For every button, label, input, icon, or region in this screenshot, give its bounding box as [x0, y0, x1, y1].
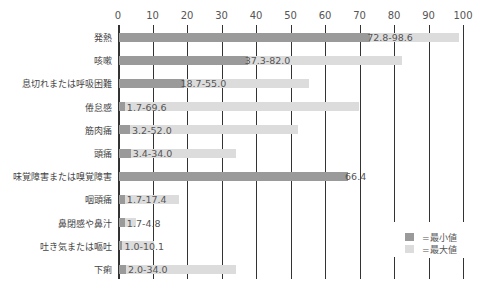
category-label: 頭痛 — [94, 147, 112, 160]
category-label: 倦怠感 — [85, 100, 112, 113]
bar-value-label: 1.7-69.6 — [127, 101, 167, 112]
gridline — [463, 25, 464, 222]
bar-min — [119, 172, 348, 181]
category-label: 鼻閉感や鼻汁 — [58, 216, 112, 229]
legend-swatch-max — [405, 245, 414, 253]
bar-value-label: 2.0-34.0 — [128, 264, 168, 275]
category-label: 咳嗽 — [94, 54, 112, 67]
legend: =最小値 =最大値 — [400, 228, 470, 258]
x-tick-label: 10 — [146, 10, 159, 21]
bar-min — [119, 241, 122, 250]
bar-value-label: 72.8-98.6 — [367, 32, 413, 43]
x-tick-label: 0 — [115, 10, 121, 21]
legend-item-min: =最小値 — [405, 232, 457, 242]
x-tick-label: 50 — [284, 10, 297, 21]
legend-label-max: =最大値 — [422, 243, 457, 256]
x-tick-label: 100 — [453, 10, 472, 21]
x-tick-label: 80 — [388, 10, 401, 21]
category-label: 息切れまたは呼吸困難 — [22, 77, 112, 90]
gridline — [394, 257, 395, 279]
category-label: 吐き気または嘔吐 — [40, 239, 112, 252]
bar-min — [119, 195, 125, 204]
symptom-range-bar-chart: 0102030405060708090100 発熱72.8-98.6咳嗽37.3… — [0, 0, 482, 294]
gridline — [394, 25, 395, 222]
bar-min — [119, 125, 130, 134]
legend-swatch-min — [405, 233, 414, 241]
x-tick-label: 40 — [250, 10, 263, 21]
x-tick-label: 30 — [215, 10, 228, 21]
bar-value-label: 18.7-55.0 — [181, 78, 227, 89]
bar-value-label: 1.7-4.8 — [127, 217, 161, 228]
gridline — [429, 257, 430, 279]
x-tick-label: 90 — [422, 10, 435, 21]
category-label: 味覚障害または嗅覚障害 — [13, 170, 112, 183]
bar-value-label: 3.2-52.0 — [132, 124, 172, 135]
bar-min — [119, 218, 125, 227]
bar-value-label: 3.4-34.0 — [133, 148, 173, 159]
x-tick-label: 20 — [181, 10, 194, 21]
x-tick-label: 70 — [353, 10, 366, 21]
category-label: 筋肉痛 — [85, 123, 112, 136]
bar-value-label: 1.7-17.4 — [127, 194, 167, 205]
category-label: 下痢 — [94, 263, 112, 276]
bar-min — [119, 265, 126, 274]
bar-value-label: 1.0-10.1 — [124, 240, 164, 251]
x-tick-label: 60 — [319, 10, 332, 21]
bar-min — [119, 33, 370, 42]
category-label: 咽頭痛 — [85, 193, 112, 206]
legend-item-max: =最大値 — [405, 244, 457, 254]
category-label: 発熱 — [94, 31, 112, 44]
bar-min — [119, 56, 248, 65]
gridline — [463, 257, 464, 279]
bar-min — [119, 102, 125, 111]
bar-min — [119, 79, 184, 88]
bar-value-label: 66.4 — [345, 171, 366, 182]
bar-min — [119, 149, 131, 158]
bar-value-label: 37.3-82.0 — [245, 55, 291, 66]
gridline — [429, 25, 430, 222]
